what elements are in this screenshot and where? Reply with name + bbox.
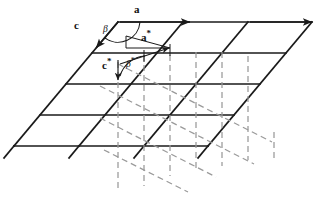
label-a-vector: a xyxy=(134,4,140,15)
label-beta-star-angle: β* xyxy=(126,57,135,70)
direct-axis-arrows xyxy=(96,22,312,48)
label-c-star-vector: c* xyxy=(102,57,111,71)
recip-astar-line-1 xyxy=(100,86,254,164)
direct-c-line-2b xyxy=(134,146,144,158)
direct-lattice-c-lines xyxy=(4,22,312,158)
direct-c-line-0b xyxy=(4,146,14,158)
lattice-canvas xyxy=(0,0,332,204)
label-c-star-asterisk: * xyxy=(107,56,112,66)
label-a-star-asterisk: * xyxy=(147,28,152,38)
label-a-star-vector: a* xyxy=(141,29,151,43)
direct-lattice-a-lines xyxy=(14,22,312,146)
label-beta-star-asterisk: * xyxy=(131,56,135,65)
lattice-diagram-figure: a c β a* c* β* xyxy=(0,0,332,204)
direct-c-line-1b xyxy=(69,146,79,158)
label-beta-angle: β xyxy=(103,25,108,35)
label-c-vector: c xyxy=(74,20,79,31)
direct-c-line-3b xyxy=(198,146,208,158)
recip-astar-line-0 xyxy=(118,64,272,142)
